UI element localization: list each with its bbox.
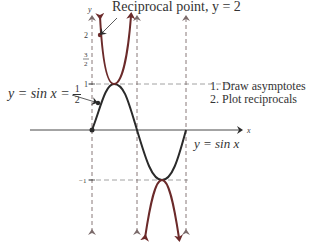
cosecant-lower-branch — [145, 180, 179, 238]
tick-label-2: 2 — [84, 31, 88, 40]
one-half-fraction: 1 2 — [73, 84, 81, 105]
reciprocal-point — [98, 33, 102, 37]
reciprocal-pointer-arrow — [102, 18, 117, 33]
one-half-numerator: 1 — [75, 84, 80, 94]
sin-half-point — [96, 101, 100, 105]
sin-half-label: y = sin x = 1 2 — [8, 84, 81, 105]
cosecant-upper-branch — [100, 16, 131, 84]
csc-graph: y x 2 3 2 1 −1 — [0, 0, 311, 245]
steps-list: 1. Draw asymptotes 2. Plot reciprocals — [210, 80, 306, 106]
tick-label-1: 1 — [84, 80, 88, 89]
reciprocal-point-label: Reciprocal point, y = 2 — [112, 0, 241, 15]
origin-point — [90, 128, 95, 133]
sin-half-lhs: y = sin x = — [8, 86, 70, 101]
sine-curve-label: y = sin x — [194, 136, 239, 152]
x-axis-label: x — [246, 126, 251, 135]
tick-label-neg1: −1 — [79, 177, 87, 185]
y-axis-label: y — [87, 5, 92, 14]
tick-label-3half-num: 3 — [84, 51, 88, 59]
one-half-denominator: 2 — [75, 95, 80, 105]
sine-curve — [92, 84, 186, 180]
tick-label-3half-den: 2 — [84, 60, 88, 68]
step-plot-reciprocals: 2. Plot reciprocals — [210, 93, 306, 106]
